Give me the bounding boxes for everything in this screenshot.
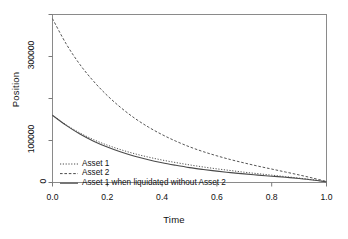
legend-item-label: Asset 1 [82, 159, 109, 168]
legend-line-samples [60, 164, 78, 183]
x-tick-label: 0.4 [142, 192, 182, 202]
plot-canvas [0, 0, 348, 239]
legend-item-label: Asset 2 [82, 168, 109, 177]
y-axis-ticks [49, 15, 53, 183]
x-axis-title: Time [0, 214, 348, 225]
chart-figure: Time Position 0.00.20.40.60.81.0 0100000… [0, 0, 348, 239]
plot-frame [53, 15, 327, 183]
y-tick-label: 0 [0, 176, 46, 186]
x-tick-label: 0.6 [197, 192, 237, 202]
legend-item-label: Asset 1 when liquidated without Asset 2 [82, 178, 226, 187]
y-tick-label: 300000 [0, 50, 46, 60]
y-tick-label: 100000 [0, 134, 46, 144]
x-tick-label: 1.0 [307, 192, 347, 202]
x-tick-label: 0.2 [87, 192, 127, 202]
series-line [53, 19, 327, 182]
x-tick-label: 0.8 [252, 192, 292, 202]
data-series-group [53, 19, 327, 182]
x-tick-label: 0.0 [33, 192, 73, 202]
